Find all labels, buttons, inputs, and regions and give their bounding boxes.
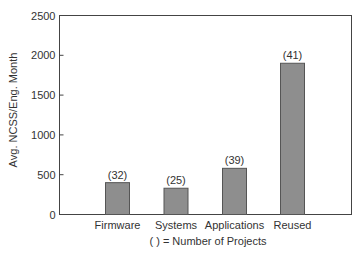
bar-reused <box>281 63 305 214</box>
x-category-label: Firmware <box>95 219 141 231</box>
x-category-label: Reused <box>274 219 312 231</box>
bar-count-label: (39) <box>225 154 245 166</box>
bar-firmware <box>106 183 130 215</box>
y-tick-label: 0 <box>49 209 55 221</box>
y-tick-label: 500 <box>37 169 55 181</box>
y-tick-label: 1000 <box>31 129 55 141</box>
bar-chart: 05001000150020002500 (32)Firmware(25)Sys… <box>0 0 361 258</box>
bar-count-label: (25) <box>166 174 186 186</box>
x-category-label: Systems <box>155 219 198 231</box>
bar-count-label: (32) <box>108 169 128 181</box>
y-axis-ticks: 05001000150020002500 <box>31 10 63 221</box>
bar-count-label: (41) <box>283 49 303 61</box>
y-tick-label: 1500 <box>31 89 55 101</box>
bars: (32)Firmware(25)Systems(39)Applications(… <box>95 49 312 231</box>
y-axis-label: Avg. NCSS/Eng. Month <box>7 53 19 168</box>
y-tick-label: 2000 <box>31 49 55 61</box>
y-tick-label: 2500 <box>31 10 55 22</box>
x-category-label: Applications <box>205 219 265 231</box>
bar-applications <box>223 168 247 214</box>
x-axis-label: ( ) = Number of Projects <box>149 235 267 247</box>
bar-systems <box>164 188 188 214</box>
plot-frame <box>60 16 352 215</box>
